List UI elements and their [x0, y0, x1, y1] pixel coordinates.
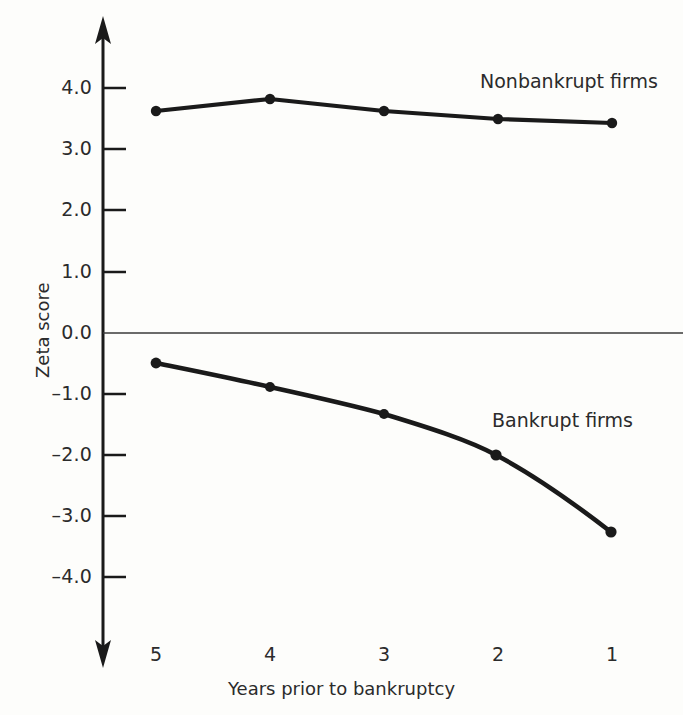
y-axis-title: Zeta score — [32, 282, 53, 378]
series-label-nonbankrupt-firms: Nonbankrupt firms — [480, 70, 658, 92]
chart-canvas — [0, 0, 683, 715]
y-tick-label: 3.0 — [20, 137, 92, 159]
y-axis — [95, 16, 111, 668]
series-nonbankrupt-firms — [151, 94, 617, 128]
y-tick-label: 1.0 — [20, 260, 92, 282]
y-tick-label: 0.0 — [20, 321, 92, 343]
y-tick-label: 4.0 — [20, 76, 92, 98]
x-tick-label: 2 — [478, 643, 518, 665]
y-tick-label: 2.0 — [20, 198, 92, 220]
y-tick-label: –4.0 — [12, 565, 92, 587]
x-tick-label: 3 — [364, 643, 404, 665]
x-tick-label: 4 — [250, 643, 290, 665]
y-tick-label: –3.0 — [12, 504, 92, 526]
x-axis-title: Years prior to bankruptcy — [0, 678, 683, 699]
chart-figure: 4.0 3.0 2.0 1.0 0.0 –1.0 –2.0 –3.0 –4.0 … — [0, 0, 683, 715]
y-tick-label: –1.0 — [12, 382, 92, 404]
x-tick-label: 5 — [136, 643, 176, 665]
y-tick-label: –2.0 — [12, 443, 92, 465]
series-label-bankrupt-firms: Bankrupt firms — [492, 409, 633, 431]
x-tick-label: 1 — [592, 643, 632, 665]
series-bankrupt-firms — [151, 358, 617, 538]
